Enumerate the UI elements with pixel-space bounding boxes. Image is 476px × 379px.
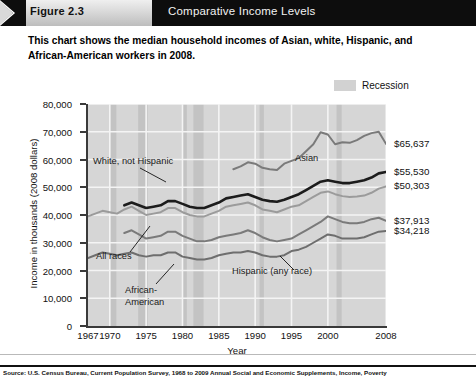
x-axis-tick-label: 1980 xyxy=(172,330,193,341)
chevron-right-icon xyxy=(0,0,26,26)
figure-subtitle: This chart shows the median household in… xyxy=(28,33,448,63)
series-line xyxy=(233,132,386,170)
y-axis-tick-label: 30,000 xyxy=(43,237,72,248)
y-axis-tick-label: 40,000 xyxy=(43,210,72,221)
y-axis-tick-label: 70,000 xyxy=(43,126,72,137)
legend-label-recession: Recession xyxy=(362,80,409,91)
series-annotation-label: Asian xyxy=(295,153,318,163)
y-axis-tick-label: 80,000 xyxy=(43,99,72,110)
x-axis-line xyxy=(86,326,387,328)
figure-title: Comparative Income Levels xyxy=(168,5,316,17)
y-axis-tick-label: 50,000 xyxy=(43,182,72,193)
x-axis-tick-label: 1967 xyxy=(77,330,98,341)
chart-area: 010,00020,00030,00040,00050,00060,00070,… xyxy=(0,96,476,354)
figure-header-bar: Figure 2.3 Comparative Income Levels xyxy=(0,0,476,26)
x-axis-tick-label: 1985 xyxy=(208,330,229,341)
figure-number-tab: Figure 2.3 xyxy=(0,0,152,26)
y-axis-tick-label: 10,000 xyxy=(43,293,72,304)
figure-number-label: Figure 2.3 xyxy=(30,5,84,17)
x-axis-tick-label: 1995 xyxy=(281,330,302,341)
series-annotation-label: All races xyxy=(96,251,132,261)
source-note: Source: U.S. Census Bureau, Current Popu… xyxy=(3,369,476,376)
chart-legend: Recession xyxy=(334,80,409,91)
y-axis-tick-label: 60,000 xyxy=(43,154,72,165)
x-axis-tick-label: 1990 xyxy=(244,330,265,341)
series-annotation-label: African-American xyxy=(125,284,183,308)
series-annotation-label: Hispanic (any race) xyxy=(232,266,312,276)
series-annotation-label: White, not Hispanic xyxy=(93,156,173,166)
annotation-leader-line xyxy=(156,264,174,284)
series-end-value-label: $50,303 xyxy=(394,180,429,191)
series-end-value-label: $34,218 xyxy=(394,225,429,236)
figure-bottom-divider xyxy=(0,354,476,355)
y-axis-tick-label: 0 xyxy=(67,321,72,332)
series-end-value-label: $65,637 xyxy=(394,138,429,149)
y-axis-ticks: 010,00020,00030,00040,00050,00060,00070,… xyxy=(0,96,82,336)
legend-swatch-recession xyxy=(334,80,356,91)
x-axis-tick-label: 1975 xyxy=(135,330,156,341)
y-axis-tick-label: 20,000 xyxy=(43,265,72,276)
y-axis-line xyxy=(86,104,88,327)
x-axis-tick-label: 2008 xyxy=(375,330,396,341)
x-axis-tick-label: 2000 xyxy=(317,330,338,341)
footer-rule xyxy=(0,365,476,367)
y-axis-title: Income in thousands (2008 dollars) xyxy=(28,114,39,314)
series-end-value-label: $55,530 xyxy=(394,166,429,177)
x-axis-tick-label: 1970 xyxy=(99,330,120,341)
